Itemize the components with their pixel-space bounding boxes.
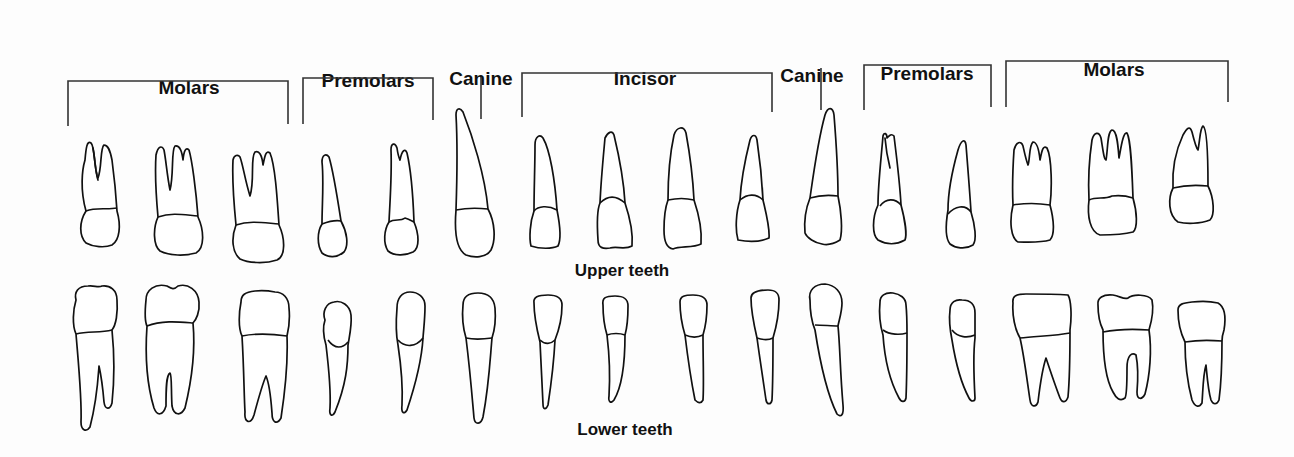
lower-central-incisor-left xyxy=(603,296,628,402)
lower-premolar-1-right xyxy=(880,293,907,402)
upper-canine-left xyxy=(455,109,494,257)
upper-molar-3-right xyxy=(1170,126,1213,223)
lower-molar-3-left xyxy=(73,286,117,430)
upper-premolar-2-right xyxy=(946,141,975,248)
label-premolars-left: Premolars xyxy=(322,70,415,91)
upper-lateral-incisor-left xyxy=(530,136,560,248)
lower-canine-right xyxy=(810,284,844,416)
upper-canine-right xyxy=(805,109,842,245)
upper-lateral-incisor-right xyxy=(736,136,769,242)
upper-molar-2-left xyxy=(154,146,202,255)
lower-molar-1-right xyxy=(1013,294,1071,406)
upper-teeth-row xyxy=(81,109,1213,263)
upper-teeth-label: Upper teeth xyxy=(575,261,669,280)
lower-molar-1-left xyxy=(239,291,289,423)
upper-molar-1-right xyxy=(1011,142,1053,242)
lower-premolar-2-right xyxy=(950,300,975,401)
lower-lateral-incisor-right xyxy=(751,290,779,404)
upper-molar-2-right xyxy=(1088,130,1136,235)
teeth-diagram-svg: Molars Premolars Canine Incisor Canine P… xyxy=(0,0,1294,457)
upper-premolar-2-left xyxy=(318,155,347,257)
lower-central-incisor-right xyxy=(680,295,707,403)
upper-premolar-1-left xyxy=(385,144,418,255)
label-premolars-right: Premolars xyxy=(881,63,974,84)
lower-teeth-row xyxy=(73,284,1225,430)
upper-molar-1-left xyxy=(233,152,284,263)
upper-molar-3-left xyxy=(81,142,120,246)
lower-lateral-incisor-left xyxy=(534,295,562,409)
lower-teeth-label: Lower teeth xyxy=(577,420,672,439)
lower-premolar-2-left xyxy=(324,302,352,416)
upper-central-incisor-right-1 xyxy=(664,128,701,249)
lower-molar-2-right xyxy=(1098,295,1153,400)
upper-premolar-1-right xyxy=(874,134,906,244)
lower-canine-left xyxy=(463,293,496,423)
label-molars-right: Molars xyxy=(1083,59,1144,80)
label-incisor: Incisor xyxy=(614,68,677,89)
label-molars-left: Molars xyxy=(158,77,219,98)
lower-molar-2-left xyxy=(145,285,199,413)
upper-central-incisor-left-1 xyxy=(597,132,632,248)
lower-premolar-1-left xyxy=(396,292,425,413)
lower-molar-3-right xyxy=(1178,301,1225,406)
dental-chart-diagram: Molars Premolars Canine Incisor Canine P… xyxy=(0,0,1294,457)
label-canine-right: Canine xyxy=(780,65,843,86)
